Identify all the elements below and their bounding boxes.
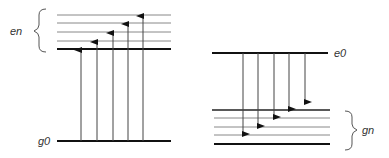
brace-en-icon xyxy=(34,9,46,52)
emission-diagram: e0 gn xyxy=(212,47,374,150)
energy-level-diagram: en g0 e0 gn xyxy=(0,0,389,158)
label-e0: e0 xyxy=(334,47,347,59)
brace-gn-icon xyxy=(345,111,357,150)
label-gn: gn xyxy=(362,124,374,136)
absorption-diagram: en g0 xyxy=(10,9,171,147)
label-en: en xyxy=(10,25,22,37)
label-g0: g0 xyxy=(38,135,51,147)
